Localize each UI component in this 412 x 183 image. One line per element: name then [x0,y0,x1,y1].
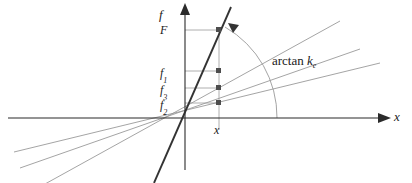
diagram-canvas [0,0,412,183]
data-point-marker-f3 [216,85,221,90]
data-point-marker-f1 [216,68,221,73]
axes [8,3,391,170]
y-tick-label-f2: f2 [160,96,167,115]
x-axis-label: x [394,110,400,123]
ray-line-f2 [14,63,380,152]
data-point-marker-f2 [216,100,221,105]
angle-annotation-prefix: arctan [272,53,304,68]
x-axis-arrowhead-icon [378,113,391,123]
y-tick-label-F: F [160,24,167,36]
ray-lines [14,21,380,183]
x-tick-label: x [214,124,219,136]
f-axis-label: f [159,8,163,21]
coordinate-diagram: f x F f1 f3 f2 x arctan ke [0,0,412,183]
horizontal-guide-lines [185,30,219,103]
angle-arc [225,27,277,118]
ray-line-f1 [45,21,340,183]
f-axis-arrowhead-icon [180,3,190,15]
angle-annotation-variable: k [307,53,313,68]
y-tick-label-f2-subscript: 2 [163,108,167,117]
data-point-marker-F [216,27,221,32]
arc-arrowhead-icon [228,23,239,33]
angle-annotation: arctan ke [272,52,316,68]
angle-annotation-subscript: e [313,61,317,70]
